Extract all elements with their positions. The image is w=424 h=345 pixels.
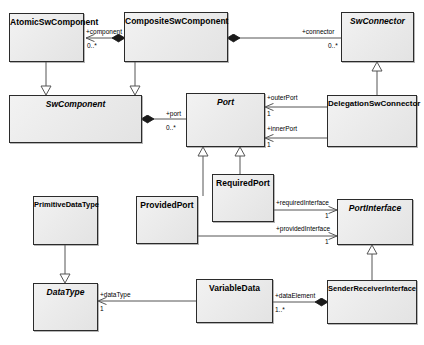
edge-label-port: +port — [166, 110, 181, 118]
edge-multiplicity-component: 0..* — [87, 42, 97, 50]
edge-label-data-type: +dataType — [100, 291, 131, 299]
edge-generalization-providedport-port — [198, 147, 208, 196]
class-box-sw-component[interactable]: SwComponent — [9, 95, 142, 143]
edge-generalization-primitive-datatype — [60, 245, 70, 283]
class-name-provided-port: ProvidedPort — [137, 197, 197, 210]
class-box-atomic-sw-component[interactable]: AtomicSwComponent — [9, 13, 84, 62]
edge-multiplicity-connector: 0..* — [328, 42, 338, 50]
class-name-sw-connector: SwConnector — [342, 13, 413, 26]
edge-label-inner-port: +innerPort — [267, 125, 297, 133]
class-name-port: Port — [187, 94, 264, 107]
class-name-atomic-sw-component: AtomicSwComponent — [10, 14, 83, 27]
class-name-primitive-data-type: PrimitiveDataType — [34, 197, 97, 210]
edge-label-provided-interface: +providedInterface — [276, 225, 330, 233]
class-name-delegation-sw-connector: DelegationSwConnector — [328, 96, 416, 109]
edge-multiplicity-data-element: 1..* — [275, 306, 285, 314]
edge-multiplicity-port: 0..* — [166, 124, 176, 132]
edge-label-connector: +connector — [302, 28, 334, 36]
edge-label-required-interface: +requiredInterface — [276, 199, 329, 207]
edge-multiplicity-provided-interface: 1 — [325, 238, 329, 246]
edge-generalization-delegation-swconnector — [372, 62, 382, 95]
class-name-required-port: RequiredPort — [213, 175, 273, 188]
edge-label-data-element: +dataElement — [275, 292, 315, 300]
edge-label-component: +component — [86, 28, 122, 36]
class-name-variable-data: VariableData — [197, 280, 272, 293]
class-name-data-type: DataType — [34, 284, 97, 297]
class-box-port[interactable]: Port — [186, 93, 265, 147]
edge-generalization-senderreceiver-portinterface — [367, 245, 377, 280]
class-name-port-interface: PortInterface — [338, 200, 412, 213]
class-name-composite-sw-component: CompositeSwComponent — [125, 13, 227, 26]
uml-class-diagram: AtomicSwComponent CompositeSwComponent S… — [0, 0, 424, 345]
class-box-sender-receiver-interface[interactable]: SenderReceiverInterface — [327, 280, 417, 324]
class-name-sender-receiver-interface: SenderReceiverInterface — [328, 281, 416, 294]
class-box-variable-data[interactable]: VariableData — [196, 279, 273, 323]
edge-generalization-atomic-swcomponent — [41, 62, 51, 95]
class-box-delegation-sw-connector[interactable]: DelegationSwConnector — [327, 95, 417, 147]
class-box-port-interface[interactable]: PortInterface — [337, 199, 413, 245]
edge-generalization-requiredport-port — [235, 147, 245, 174]
edge-multiplicity-required-interface: 1 — [325, 212, 329, 220]
edge-multiplicity-outer-port: 1 — [267, 110, 271, 118]
edge-multiplicity-data-type: 1 — [100, 305, 104, 313]
class-box-primitive-data-type[interactable]: PrimitiveDataType — [33, 196, 98, 245]
class-box-composite-sw-component[interactable]: CompositeSwComponent — [124, 12, 228, 62]
class-box-sw-connector[interactable]: SwConnector — [341, 12, 414, 62]
class-name-sw-component: SwComponent — [10, 96, 141, 109]
edge-generalization-composite-swcomponent — [130, 62, 140, 95]
class-box-required-port[interactable]: RequiredPort — [212, 174, 274, 222]
class-box-provided-port[interactable]: ProvidedPort — [136, 196, 198, 244]
class-box-data-type[interactable]: DataType — [33, 283, 98, 331]
edge-multiplicity-inner-port: 1 — [267, 141, 271, 149]
edge-label-outer-port: +outerPort — [267, 94, 298, 102]
